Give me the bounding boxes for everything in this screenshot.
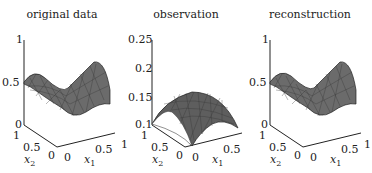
x1-axis-label: x1	[84, 153, 95, 168]
x2-axis-label: x2	[24, 153, 35, 168]
x2-axis-label: x2	[152, 153, 163, 168]
x1-tick: 0.5	[223, 144, 241, 155]
x2-tick: 0	[294, 150, 301, 161]
panel-reconstruction: reconstruction 1 0.5 0 1 0.5 0 0 0.5 1 x…	[248, 0, 372, 173]
z-tick: 0.2	[135, 63, 153, 74]
x2-tick: 1	[141, 130, 148, 141]
figure: original data 1 0.5 0 1 0.5 0 0 0.5 1 x2…	[0, 0, 372, 173]
x1-tick: 0	[64, 152, 71, 163]
x1-axis-label: x1	[212, 153, 223, 168]
panel-original-data: original data 1 0.5 0 1 0.5 0 0 0.5 1 x2…	[0, 0, 124, 173]
x1-tick: 0.5	[95, 144, 113, 155]
x2-tick: 1	[13, 130, 20, 141]
x1-tick: 0.5	[341, 144, 359, 155]
x2-tick: 0	[48, 150, 55, 161]
x1-tick: 0	[310, 152, 317, 163]
x2-tick: 0.5	[269, 142, 287, 153]
x2-tick: 0	[176, 150, 183, 161]
x2-axis-label: x2	[270, 153, 281, 168]
x2-tick: 0.5	[23, 142, 41, 153]
x1-tick: 1	[364, 139, 371, 150]
x2-tick: 0.5	[151, 142, 169, 153]
x1-tick: 0	[192, 152, 199, 163]
z-tick: 0.5	[2, 77, 20, 88]
x1-axis-label: x1	[330, 153, 341, 168]
z-tick: 1	[262, 34, 269, 45]
z-tick: 0.15	[128, 92, 153, 103]
panel-observation: observation 0.25 0.2 0.15 0.1 1 0.5 0 0 …	[124, 0, 248, 173]
z-tick: 1	[16, 34, 23, 45]
z-tick: 0.25	[128, 34, 153, 45]
x2-tick: 1	[259, 130, 266, 141]
z-tick: 0.5	[249, 77, 267, 88]
